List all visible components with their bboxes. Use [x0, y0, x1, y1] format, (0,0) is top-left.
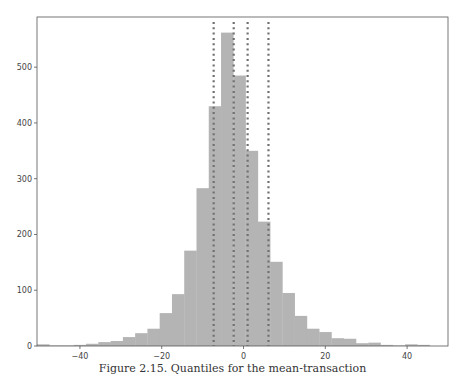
histogram-bar — [172, 294, 185, 346]
histogram-bar — [331, 338, 344, 346]
y-tick-label: 500 — [17, 63, 32, 72]
x-tick-label: 0 — [241, 352, 246, 361]
histogram-bar — [184, 251, 197, 346]
histogram-bar — [270, 262, 283, 346]
histogram-bar — [319, 332, 332, 346]
x-tick-label: 20 — [320, 352, 330, 361]
histogram-bar — [233, 76, 246, 346]
histogram-bar — [295, 316, 308, 346]
histogram-bar — [221, 33, 234, 346]
histogram-bar — [246, 151, 259, 346]
x-tick-label: 40 — [402, 352, 412, 361]
histogram-bar — [356, 343, 369, 346]
y-tick-label: 100 — [17, 286, 32, 295]
histogram-figure: 0100200300400500 −40−2002040 — [0, 0, 465, 376]
x-tick-label: −40 — [71, 352, 88, 361]
histogram-bar — [135, 333, 148, 346]
y-tick-label: 300 — [17, 175, 32, 184]
y-tick-label: 0 — [27, 342, 32, 351]
histogram-bar — [123, 337, 136, 346]
histogram-bar — [111, 341, 124, 346]
y-tick-label: 200 — [17, 230, 32, 239]
x-tick-label: −20 — [153, 352, 170, 361]
y-tick-label: 400 — [17, 119, 32, 128]
histogram-bar — [98, 342, 111, 346]
figure-caption: Figure 2.15. Quantiles for the mean-tran… — [0, 362, 465, 375]
histogram-bar — [147, 329, 160, 346]
histogram-bar — [307, 329, 320, 346]
histogram-bar — [196, 188, 209, 346]
histogram-bar — [282, 293, 295, 346]
histogram-bar — [368, 343, 381, 346]
y-axis-ticks: 0100200300400500 — [17, 63, 37, 351]
histogram-bar — [209, 106, 222, 346]
histogram-bar — [344, 339, 357, 346]
histogram-bar — [160, 313, 173, 346]
x-axis-ticks: −40−2002040 — [71, 346, 412, 361]
